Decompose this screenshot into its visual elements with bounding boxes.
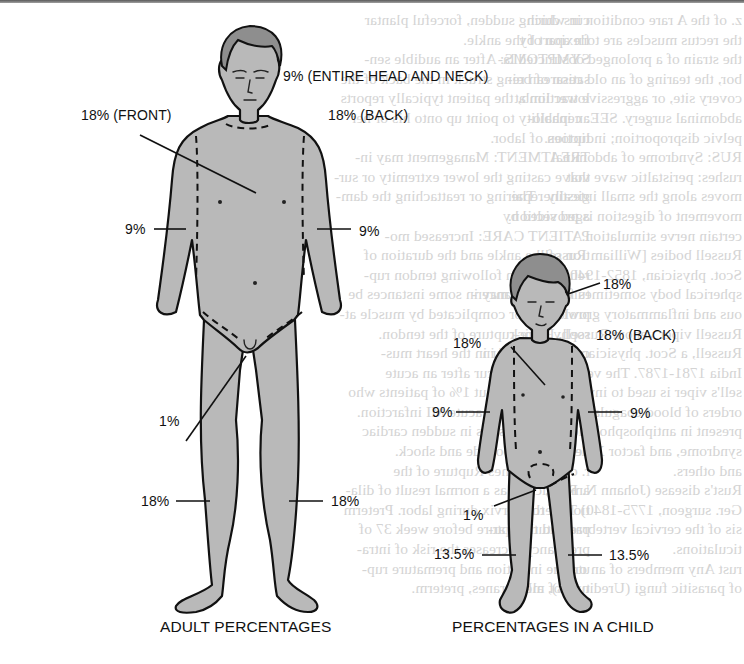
adult-navel xyxy=(253,281,257,285)
adult-perineum-label: 1% xyxy=(159,413,179,429)
adult-head-neck-label: 9% (ENTIRE HEAD AND NECK) xyxy=(283,68,489,84)
child-torso-back-label: 18% (BACK) xyxy=(596,327,676,343)
adult-torso xyxy=(157,116,341,353)
child-left-arm-label: 9% xyxy=(432,404,452,420)
adult-left-leg-label: 18% xyxy=(141,493,169,509)
child-left-nipple xyxy=(521,393,525,397)
child-right-leg-label: 13.5% xyxy=(609,547,649,563)
adult-right-leg-label: 18% xyxy=(331,493,359,509)
adult-right-nipple xyxy=(282,200,286,204)
child-torso xyxy=(478,338,602,488)
adult-left-nipple xyxy=(218,200,222,204)
child-caption: PERCENTAGES IN A CHILD xyxy=(452,619,654,635)
child-head-label: 18% xyxy=(603,276,631,292)
adult-right-arm-label: 9% xyxy=(359,223,379,239)
child-figure xyxy=(456,254,622,613)
adult-left-arm-label: 9% xyxy=(125,221,145,237)
child-torso-front-label: 18% xyxy=(453,335,481,351)
adult-torso-front-label: 18% (FRONT) xyxy=(81,107,172,123)
child-perineum-label: 1% xyxy=(463,507,483,523)
adult-figure xyxy=(140,26,351,613)
adult-torso-back-label: 18% (BACK) xyxy=(328,107,408,123)
child-right-arm-label: 9% xyxy=(630,405,650,421)
child-left-leg-label: 13.5% xyxy=(434,546,474,562)
child-right-nipple xyxy=(561,395,565,399)
child-head-leader xyxy=(568,283,600,294)
child-navel xyxy=(538,450,542,454)
adult-caption: ADULT PERCENTAGES xyxy=(160,619,331,635)
